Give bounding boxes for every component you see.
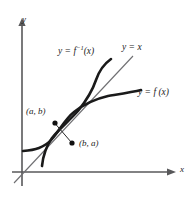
y-axis-label: y [22,15,26,24]
figure-canvas [0,0,193,203]
inverse-function-label-tail: (x) [84,46,95,56]
function-curve-label: y = f (x) [138,88,169,98]
function-curve-f-inverse [42,59,111,166]
point-marker-b-a [69,140,74,145]
inverse-function-label-exponent: −1 [76,44,84,51]
identity-line-label: y = x [122,43,142,53]
point-marker-a-b [52,120,57,125]
point-label-b-a: (b, a) [79,139,99,148]
x-axis-arrowhead [167,168,176,175]
identity-line-y-equals-x [14,56,133,183]
point-label-a-b: (a, b) [26,107,46,116]
inverse-function-figure: y x y = f−1(x) y = x y = f (x) (a, b) (b… [0,0,193,203]
inverse-function-curve-label: y = f−1(x) [58,45,94,57]
inverse-function-label-base: y = f [58,46,76,56]
x-axis-label: x [180,165,184,174]
